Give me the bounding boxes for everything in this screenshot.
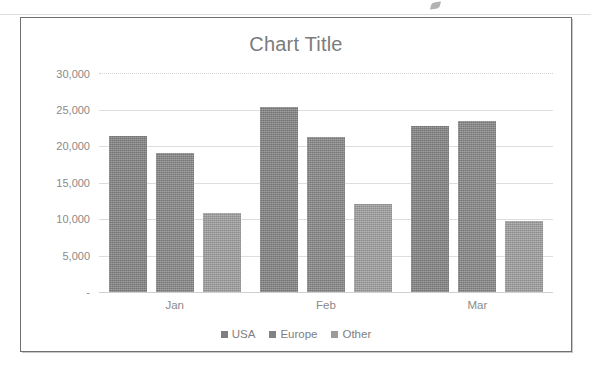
legend-item[interactable]: Europe [269, 328, 317, 340]
bar[interactable] [109, 136, 147, 292]
y-axis-tick-label: 5,000 [62, 250, 90, 262]
bar[interactable] [307, 137, 345, 292]
y-axis-tick-label: 15,000 [56, 177, 90, 189]
bar-groups [99, 73, 553, 292]
legend-item[interactable]: Other [331, 328, 371, 340]
scan-artifact-mark [430, 1, 441, 9]
bar[interactable] [354, 204, 392, 292]
scan-artifact-rule [0, 14, 591, 15]
bar-group [402, 73, 553, 292]
y-axis-tick-label: 10,000 [56, 213, 90, 225]
legend-item-label: Europe [280, 328, 317, 340]
y-axis-tick-label: 25,000 [56, 104, 90, 116]
y-axis-tick-label: 30,000 [56, 68, 90, 80]
x-axis-baseline: - [99, 292, 553, 293]
chart-legend[interactable]: USAEuropeOther [21, 328, 571, 340]
legend-item-label: Other [342, 328, 371, 340]
bar[interactable] [260, 107, 298, 292]
x-axis-category-label: Feb [250, 299, 401, 311]
chart-title[interactable]: Chart Title [21, 33, 571, 56]
y-axis-tick-label: - [86, 286, 90, 298]
bar-group [250, 73, 401, 292]
chart-frame[interactable]: Chart Title 30,00025,00020,00015,00010,0… [20, 17, 572, 352]
x-axis-category-label: Mar [402, 299, 553, 311]
bar-group [99, 73, 250, 292]
legend-item[interactable]: USA [221, 328, 256, 340]
bar[interactable] [411, 126, 449, 292]
bar[interactable] [156, 153, 194, 292]
y-axis-tick-label: 20,000 [56, 140, 90, 152]
legend-swatch-icon [331, 331, 338, 338]
x-axis-category-labels: JanFebMar [99, 299, 553, 311]
legend-swatch-icon [269, 331, 276, 338]
bar[interactable] [203, 213, 241, 292]
x-axis-category-label: Jan [99, 299, 250, 311]
plot-area[interactable]: 30,00025,00020,00015,00010,0005,000- [99, 73, 553, 292]
legend-item-label: USA [232, 328, 256, 340]
bar[interactable] [458, 121, 496, 292]
bar[interactable] [505, 221, 543, 292]
legend-swatch-icon [221, 331, 228, 338]
